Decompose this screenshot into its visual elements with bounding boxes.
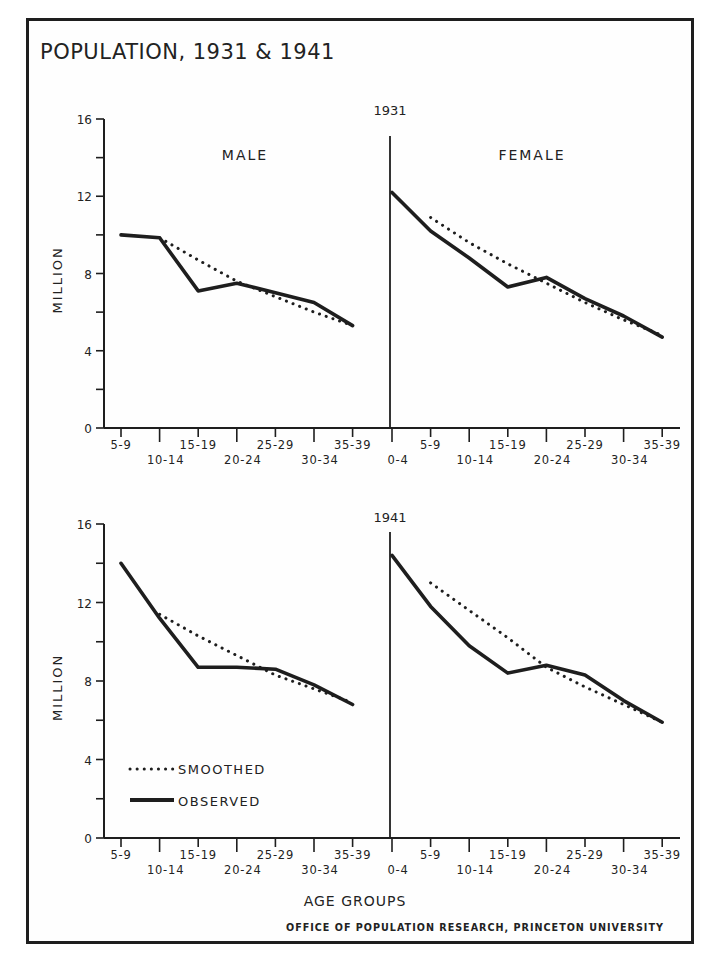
y-tick-label: 4 (84, 754, 92, 768)
panel-1941: 0481216MILLION19415-910-1415-1920-2425-2… (50, 510, 681, 877)
x-tick-label: 0-4 (387, 863, 408, 877)
y-tick-label: 8 (84, 675, 92, 689)
x-tick-label: 20-24 (534, 863, 571, 877)
x-tick-label: 5-9 (420, 438, 441, 452)
year-label: 1931 (373, 103, 406, 118)
x-tick-label: 15-19 (179, 848, 216, 862)
y-tick-label: 16 (77, 113, 92, 127)
x-tick-label: 15-19 (489, 438, 526, 452)
y-tick-label: 0 (84, 832, 92, 846)
x-tick-label: 5-9 (110, 438, 131, 452)
x-tick-label: 10-14 (456, 453, 493, 467)
x-tick-label: 35-39 (334, 848, 371, 862)
sex-label: FEMALE (498, 147, 565, 163)
legend-observed-label: OBSERVED (178, 794, 261, 809)
x-tick-label: 35-39 (334, 438, 371, 452)
y-tick-label: 12 (77, 190, 92, 204)
x-tick-label: 10-14 (456, 863, 493, 877)
year-label: 1941 (373, 510, 406, 525)
y-tick-label: 0 (84, 422, 92, 436)
x-tick-label: 5-9 (110, 848, 131, 862)
x-tick-label: 25-29 (257, 438, 294, 452)
x-tick-label: 10-14 (147, 453, 184, 467)
observed-line (121, 235, 353, 326)
legend: SMOOTHEDOBSERVED (130, 762, 266, 809)
x-tick-label: 35-39 (643, 438, 680, 452)
observed-line (121, 563, 353, 704)
x-tick-label: 0-4 (387, 453, 408, 467)
x-tick-label: 30-34 (611, 453, 648, 467)
x-axis-label: AGE GROUPS (304, 893, 407, 909)
y-tick-label: 8 (84, 268, 92, 282)
panel-1931: 0481216MILLION19315-910-1415-1920-2425-2… (50, 103, 681, 467)
x-tick-label: 20-24 (224, 453, 261, 467)
y-tick-label: 4 (84, 345, 92, 359)
x-tick-label: 30-34 (611, 863, 648, 877)
x-tick-label: 15-19 (489, 848, 526, 862)
observed-line (392, 555, 662, 722)
sex-label: MALE (222, 147, 268, 163)
x-tick-label: 20-24 (534, 453, 571, 467)
x-tick-label: 25-29 (257, 848, 294, 862)
y-tick-label: 12 (77, 597, 92, 611)
x-tick-label: 15-19 (179, 438, 216, 452)
x-tick-label: 25-29 (566, 438, 603, 452)
smoothed-line (160, 238, 353, 326)
x-tick-label: 35-39 (643, 848, 680, 862)
x-tick-label: 20-24 (224, 863, 261, 877)
x-tick-label: 5-9 (420, 848, 441, 862)
y-tick-label: 16 (77, 518, 92, 532)
x-tick-label: 25-29 (566, 848, 603, 862)
x-tick-label: 10-14 (147, 863, 184, 877)
y-axis-label: MILLION (50, 246, 65, 313)
y-axis-label: MILLION (50, 654, 65, 721)
legend-smoothed-label: SMOOTHED (178, 762, 266, 777)
x-tick-label: 30-34 (301, 863, 338, 877)
population-chart: 0481216MILLION19315-910-1415-1920-2425-2… (0, 0, 709, 964)
observed-line (392, 192, 662, 337)
x-tick-label: 30-34 (301, 453, 338, 467)
